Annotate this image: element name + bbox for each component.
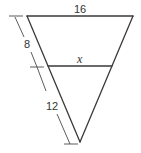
dimension-line-lower-a: [37, 67, 46, 91]
label-top-side: 16: [74, 3, 86, 15]
dimension-line-upper-a: [15, 17, 24, 37]
triangle-diagram: 16 x 8 12: [0, 0, 141, 153]
dimension-line-lower-b: [57, 114, 70, 144]
dimension-line-upper-b: [31, 52, 37, 67]
label-lower-left-part: 12: [46, 100, 58, 112]
label-parallel-segment: x: [76, 52, 83, 66]
right-side: [80, 16, 133, 142]
label-upper-left-part: 8: [24, 38, 30, 50]
left-side: [27, 16, 80, 142]
